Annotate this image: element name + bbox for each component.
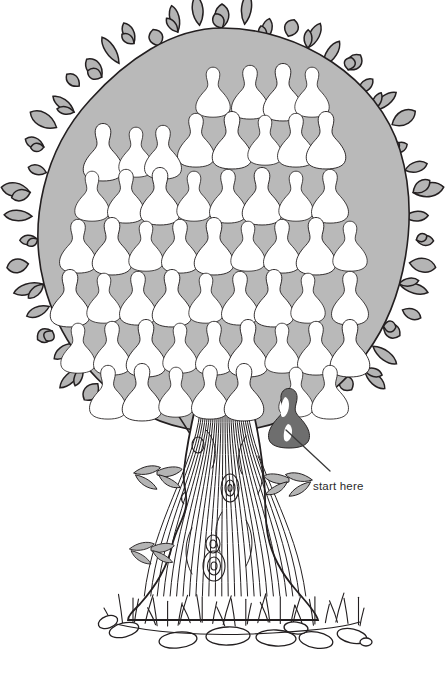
ground-stone — [360, 638, 372, 646]
pear-tree-illustration: start here — [0, 0, 448, 680]
start-here-label: start here — [313, 480, 364, 492]
illustration-stage: start here — [0, 0, 448, 680]
